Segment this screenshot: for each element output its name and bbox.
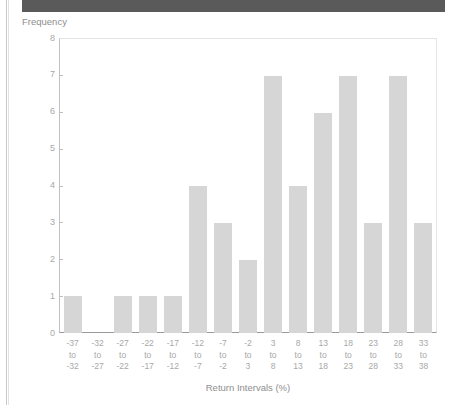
bar-slot[interactable] [185, 39, 210, 333]
histogram-bar[interactable] [164, 296, 182, 333]
x-tick-label: -37 to -32 [60, 338, 85, 373]
bar-slot[interactable] [160, 39, 185, 333]
histogram-bar[interactable] [339, 76, 357, 333]
bar-slot[interactable] [235, 39, 260, 333]
histogram-bar[interactable] [64, 296, 82, 333]
bar-slot[interactable] [210, 39, 235, 333]
x-tick-label: 8 to 13 [286, 338, 311, 373]
histogram-bar[interactable] [264, 76, 282, 333]
y-tick-label: 8 [29, 34, 55, 43]
bar-slot[interactable] [411, 39, 436, 333]
x-tick-label: 3 to 8 [261, 338, 286, 373]
histogram-bar[interactable] [114, 296, 132, 333]
y-tick-label: 0 [29, 329, 55, 338]
page-gutter-rule [6, 0, 7, 405]
y-tick-label: 4 [29, 181, 55, 190]
histogram-bar[interactable] [414, 223, 432, 333]
histogram-bar[interactable] [139, 296, 157, 333]
x-tick-label: -27 to -22 [110, 338, 135, 373]
y-tick-mark [59, 186, 63, 187]
bar-slot[interactable] [286, 39, 311, 333]
y-tick-label: 2 [29, 255, 55, 264]
y-tick-mark [59, 259, 63, 260]
y-tick-label: 3 [29, 218, 55, 227]
x-axis-tick-labels: -37 to -32-32 to -27-27 to -22-22 to -17… [60, 338, 436, 373]
histogram-bar[interactable] [189, 186, 207, 333]
x-tick-label: -32 to -27 [85, 338, 110, 373]
y-tick-label: 6 [29, 107, 55, 116]
bar-slot[interactable] [261, 39, 286, 333]
x-tick-label: 33 to 38 [411, 338, 436, 373]
y-axis-ticks: 012345678 [22, 38, 55, 333]
y-tick-mark [59, 149, 63, 150]
bar-slot[interactable] [311, 39, 336, 333]
x-tick-label: 28 to 33 [386, 338, 411, 373]
bar-slot[interactable] [60, 39, 85, 333]
x-tick-label: -17 to -12 [160, 338, 185, 373]
histogram-chart: Frequency 012345678 -37 to -32-32 to -27… [22, 14, 452, 404]
page-gutter-rule-secondary [8, 0, 9, 405]
bar-slot[interactable] [135, 39, 160, 333]
bar-slot[interactable] [386, 39, 411, 333]
bar-slot[interactable] [336, 39, 361, 333]
histogram-bar[interactable] [289, 186, 307, 333]
y-tick-mark [59, 75, 63, 76]
y-tick-label: 7 [29, 70, 55, 79]
x-tick-label: 18 to 23 [336, 338, 361, 373]
bar-series [60, 39, 436, 333]
y-tick-mark [59, 296, 63, 297]
bar-slot[interactable] [85, 39, 110, 333]
y-axis-title: Frequency [22, 16, 67, 28]
x-tick-label: 23 to 28 [361, 338, 386, 373]
histogram-bar[interactable] [364, 223, 382, 333]
page-frame: Frequency 012345678 -37 to -32-32 to -27… [0, 0, 462, 405]
y-tick-label: 5 [29, 144, 55, 153]
x-axis-title: Return Intervals (%) [59, 382, 437, 393]
x-tick-label: -7 to -2 [210, 338, 235, 373]
y-tick-mark [59, 112, 63, 113]
histogram-bar[interactable] [214, 223, 232, 333]
x-tick-label: 13 to 18 [311, 338, 336, 373]
histogram-bar[interactable] [314, 113, 332, 334]
x-tick-label: -2 to 3 [235, 338, 260, 373]
histogram-bar[interactable] [239, 260, 257, 334]
histogram-bar[interactable] [389, 76, 407, 333]
x-tick-label: -12 to -7 [185, 338, 210, 373]
header-banner [22, 0, 445, 12]
bar-slot[interactable] [110, 39, 135, 333]
y-tick-label: 1 [29, 292, 55, 301]
x-tick-label: -22 to -17 [135, 338, 160, 373]
bar-slot[interactable] [361, 39, 386, 333]
y-tick-mark [59, 222, 63, 223]
